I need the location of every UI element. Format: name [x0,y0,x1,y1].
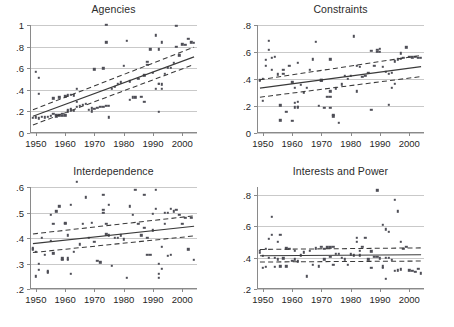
y-tick-label: .8 [230,189,251,200]
y-tick-label: .8 [230,20,251,31]
y-tick-label: .4 [230,252,251,263]
y-tick-label: .3 [3,258,24,269]
regression-line [33,57,194,116]
y-tick-label: .2 [3,284,24,295]
x-tick-mark [380,133,381,136]
plot-area [257,187,424,289]
x-tick-mark [65,289,66,292]
four-panel-figure: Agencies0.2.4.6.811950196019701980199020… [0,0,454,327]
x-tick-mark [292,133,293,136]
gridline [30,289,197,290]
x-tick-mark [36,133,37,136]
x-tick-mark [263,289,264,292]
x-tick-label: 2000 [399,294,420,305]
x-tick-mark [321,289,322,292]
x-tick-mark [263,133,264,136]
x-tick-label: 1990 [369,138,390,149]
panel-interests-and-power: Interests and Power.2.4.6.81950196019701… [227,165,454,327]
y-tick-label: 0 [230,128,251,139]
y-tick-label: .4 [3,84,24,95]
x-tick-mark [153,289,154,292]
fit-overlay [30,187,197,289]
confidence-band-lower [260,261,421,262]
panel-interdependence: Interdependence.2.3.4.5.6195019601970198… [0,165,227,327]
y-tick-label: .5 [3,207,24,218]
panel-title: Interests and Power [227,165,454,177]
panel-title: Constraints [227,3,454,15]
confidence-band-upper [260,248,421,250]
y-tick-label: .2 [230,284,251,295]
panel-title: Interdependence [0,165,227,177]
y-tick-label: 1 [3,20,24,31]
plot-area [30,187,197,289]
x-tick-mark [409,289,410,292]
confidence-band-lower [260,77,421,98]
x-tick-label: 1950 [25,294,46,305]
x-tick-label: 1990 [369,294,390,305]
gridline [257,289,424,290]
x-tick-mark [124,133,125,136]
x-tick-label: 1970 [311,294,332,305]
y-tick-mark [254,133,257,134]
x-tick-label: 2000 [399,138,420,149]
x-tick-label: 1980 [113,138,134,149]
y-tick-label: .6 [230,47,251,58]
x-tick-label: 2000 [172,138,193,149]
x-tick-mark [94,289,95,292]
confidence-band-upper [33,216,194,234]
panel-agencies: Agencies0.2.4.6.811950196019701980199020… [0,3,227,165]
gridline [30,133,197,134]
confidence-band-lower [33,64,194,124]
x-tick-label: 1950 [252,138,273,149]
y-tick-label: .8 [3,41,24,52]
regression-line [260,67,421,89]
x-tick-label: 1960 [282,294,303,305]
y-tick-mark [27,289,30,290]
x-tick-label: 1990 [142,294,163,305]
x-tick-mark [182,133,183,136]
x-tick-label: 1950 [25,138,46,149]
plot-area [30,25,197,133]
confidence-band-lower [33,236,194,253]
x-tick-label: 1980 [340,138,361,149]
x-tick-label: 1980 [113,294,134,305]
x-tick-label: 1960 [55,294,76,305]
x-tick-label: 1950 [252,294,273,305]
confidence-band-upper [33,47,194,110]
x-tick-mark [153,133,154,136]
y-tick-label: .4 [230,74,251,85]
x-tick-mark [351,289,352,292]
x-tick-label: 1960 [282,138,303,149]
x-tick-mark [65,133,66,136]
x-tick-label: 1970 [84,294,105,305]
x-tick-label: 1970 [84,138,105,149]
x-tick-mark [36,289,37,292]
y-tick-mark [254,289,257,290]
x-tick-label: 1960 [55,138,76,149]
x-tick-mark [380,289,381,292]
y-tick-label: .4 [3,233,24,244]
x-tick-label: 1970 [311,138,332,149]
x-tick-mark [351,133,352,136]
regression-line [260,255,421,256]
x-tick-label: 1990 [142,138,163,149]
y-tick-label: .6 [3,182,24,193]
regression-line [33,226,194,243]
confidence-band-upper [260,55,421,79]
x-tick-mark [182,289,183,292]
y-tick-label: .2 [230,101,251,112]
plot-area [257,25,424,133]
y-tick-mark [27,133,30,134]
panel-title: Agencies [0,3,227,15]
x-tick-mark [409,133,410,136]
panel-constraints: Constraints0.2.4.6.819501960197019801990… [227,3,454,165]
fit-overlay [257,25,424,133]
y-tick-label: 0 [3,128,24,139]
x-tick-label: 1980 [340,294,361,305]
fit-overlay [30,25,197,133]
data-point [76,181,78,183]
y-tick-label: .6 [230,221,251,232]
x-tick-mark [94,133,95,136]
y-tick-label: .6 [3,63,24,74]
gridline [257,133,424,134]
